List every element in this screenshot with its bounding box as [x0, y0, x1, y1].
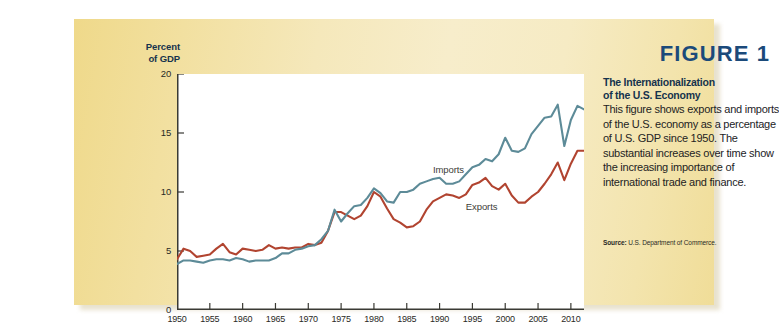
series-label-exports: Exports: [466, 201, 498, 212]
x-tick-label: 2010: [551, 314, 591, 324]
imports-line: [177, 105, 584, 264]
chart-svg: [177, 74, 584, 310]
figure-number: FIGURE 1: [602, 41, 770, 67]
plot-area: [177, 74, 584, 310]
caption-heading-line1: The Internationalization: [603, 76, 715, 88]
y-tick-label: 10: [141, 186, 171, 197]
y-tick-label: 5: [141, 245, 171, 256]
y-tick-label: 15: [141, 127, 171, 138]
y-axis-title-line1: Percent: [146, 41, 180, 52]
y-axis-title: Percent of GDP: [132, 41, 180, 64]
source-text: U.S. Department of Commerce.: [628, 239, 716, 246]
y-axis-title-line2: of GDP: [148, 53, 180, 64]
caption-heading-line2: of the U.S. Economy: [603, 89, 700, 101]
source-lead: Source:: [603, 239, 627, 246]
exports-line: [177, 151, 584, 260]
caption-heading: The Internationalization of the U.S. Eco…: [603, 76, 773, 102]
y-tick-label: 20: [141, 68, 171, 79]
series-label-imports: Imports: [433, 164, 464, 175]
caption-source: Source: U.S. Department of Commerce.: [603, 238, 779, 247]
caption-body: This figure shows exports and imports of…: [603, 102, 779, 190]
figure-panel: Percent of GDP 05101520 1950195519601965…: [74, 19, 714, 305]
